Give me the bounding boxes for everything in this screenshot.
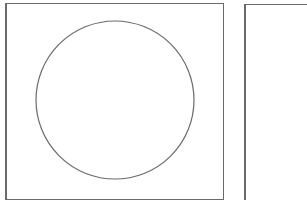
circle-shape <box>36 21 194 179</box>
canvas <box>0 0 307 200</box>
